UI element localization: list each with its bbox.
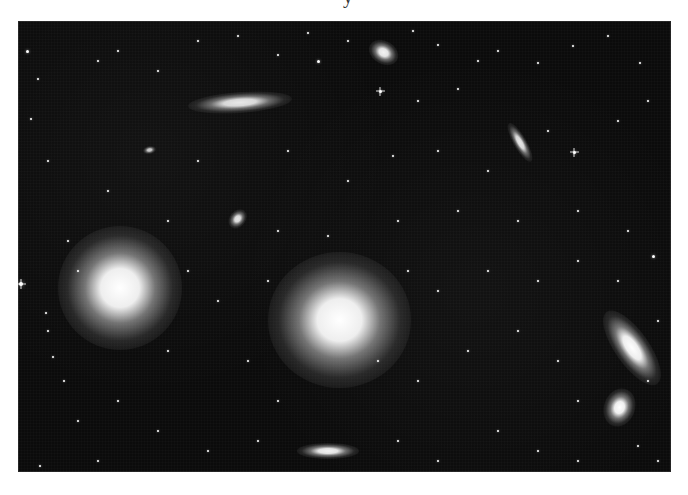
star xyxy=(407,270,409,272)
star xyxy=(63,380,65,382)
star xyxy=(637,445,639,447)
star xyxy=(67,240,69,242)
star xyxy=(647,380,649,382)
star xyxy=(417,100,419,102)
star xyxy=(657,320,659,322)
star xyxy=(647,100,649,102)
star xyxy=(517,220,519,222)
star xyxy=(277,400,279,402)
star xyxy=(477,60,479,62)
star xyxy=(497,430,499,432)
star xyxy=(37,78,39,80)
star xyxy=(487,270,489,272)
star xyxy=(167,350,169,352)
star xyxy=(537,280,539,282)
star xyxy=(392,155,394,157)
star xyxy=(97,60,99,62)
star xyxy=(657,460,659,462)
star xyxy=(379,90,382,93)
galaxy-edge-on-bottom xyxy=(297,443,359,459)
star xyxy=(267,280,269,282)
star xyxy=(557,360,559,362)
star xyxy=(617,120,619,122)
star xyxy=(26,50,29,53)
star xyxy=(257,440,259,442)
star xyxy=(197,40,199,42)
star xyxy=(577,460,579,462)
star xyxy=(19,282,23,286)
star xyxy=(47,330,49,332)
star xyxy=(217,300,219,302)
star xyxy=(237,35,239,37)
clipped-heading-fragment: y xyxy=(343,0,353,6)
star xyxy=(157,70,159,72)
star xyxy=(537,62,539,64)
star xyxy=(607,35,609,37)
star xyxy=(327,235,329,237)
star xyxy=(207,450,209,452)
star xyxy=(617,280,619,282)
star xyxy=(377,360,379,362)
star xyxy=(107,190,109,192)
star xyxy=(77,420,79,422)
galaxy-giant-elliptical-center xyxy=(268,252,411,387)
star xyxy=(437,290,439,292)
star xyxy=(467,350,469,352)
star xyxy=(187,270,189,272)
star xyxy=(417,380,419,382)
star xyxy=(437,150,439,152)
star xyxy=(577,260,579,262)
star xyxy=(317,60,320,63)
star xyxy=(347,40,349,42)
star xyxy=(457,210,459,212)
star xyxy=(52,356,54,358)
star xyxy=(397,440,399,442)
star xyxy=(307,32,309,34)
star xyxy=(457,88,459,90)
star xyxy=(197,160,199,162)
star xyxy=(652,255,655,258)
star xyxy=(537,450,539,452)
star xyxy=(577,400,579,402)
star xyxy=(397,220,399,222)
star xyxy=(39,465,41,467)
star xyxy=(117,400,119,402)
star xyxy=(577,210,579,212)
star xyxy=(47,160,49,162)
star xyxy=(437,460,439,462)
star xyxy=(437,44,439,46)
star xyxy=(572,45,574,47)
star xyxy=(277,230,279,232)
star xyxy=(547,130,549,132)
star xyxy=(77,270,79,272)
star xyxy=(277,54,279,56)
star xyxy=(247,360,249,362)
star xyxy=(497,50,499,52)
star xyxy=(412,30,414,32)
galaxy-giant-elliptical-left xyxy=(58,226,183,351)
star xyxy=(347,180,349,182)
star xyxy=(30,118,32,120)
star xyxy=(487,170,489,172)
star xyxy=(117,50,119,52)
galaxy-field-photo xyxy=(18,21,671,472)
star xyxy=(573,151,576,154)
star xyxy=(517,330,519,332)
star xyxy=(45,312,47,314)
star xyxy=(97,460,99,462)
star xyxy=(167,220,169,222)
star xyxy=(639,62,641,64)
star xyxy=(627,230,629,232)
star xyxy=(157,430,159,432)
star xyxy=(287,150,289,152)
